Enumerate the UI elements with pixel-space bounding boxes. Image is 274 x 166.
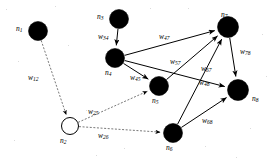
edge-weight-label: w78 xyxy=(240,48,251,56)
scan-speck xyxy=(188,8,189,9)
graph-node xyxy=(228,80,249,101)
edge-weight-label: w57 xyxy=(170,58,181,66)
edge-weight-label: w68 xyxy=(202,117,213,125)
graph-node xyxy=(150,77,169,96)
node-label: n8 xyxy=(252,95,259,103)
edge-weight-label: w34 xyxy=(98,33,109,41)
graph-node xyxy=(62,118,79,135)
scan-speck xyxy=(68,45,69,46)
graph-edge xyxy=(116,29,118,45)
edge-weight-label: w12 xyxy=(28,74,39,82)
graph-edge xyxy=(230,38,236,77)
graph-canvas xyxy=(0,0,274,166)
edge-weight-label: w26 xyxy=(98,132,109,140)
graph-node xyxy=(164,124,183,143)
node-label: n5 xyxy=(152,97,159,105)
graph-node xyxy=(29,22,48,41)
node-label: n3 xyxy=(97,13,104,21)
edge-weight-label: w48 xyxy=(199,79,210,87)
edge-weight-label: w47 xyxy=(159,33,170,41)
edge-weight-label: w25 xyxy=(88,108,99,116)
graph-node xyxy=(110,10,129,29)
node-label: n1 xyxy=(16,25,23,33)
graph-diagram: w12w34w45w47w57w67w78w48w68w25w26n1n2n3n… xyxy=(0,0,274,166)
graph-node xyxy=(218,17,239,38)
graph-edge xyxy=(41,40,66,114)
node-label: n4 xyxy=(105,69,112,77)
node-label: n7 xyxy=(221,11,228,19)
graph-edge xyxy=(79,127,160,133)
node-label: n6 xyxy=(166,144,173,152)
edge-weight-label: w45 xyxy=(130,74,141,82)
edge-weight-label: w67 xyxy=(201,65,212,73)
node-label: n2 xyxy=(60,137,67,145)
graph-node xyxy=(106,49,125,68)
